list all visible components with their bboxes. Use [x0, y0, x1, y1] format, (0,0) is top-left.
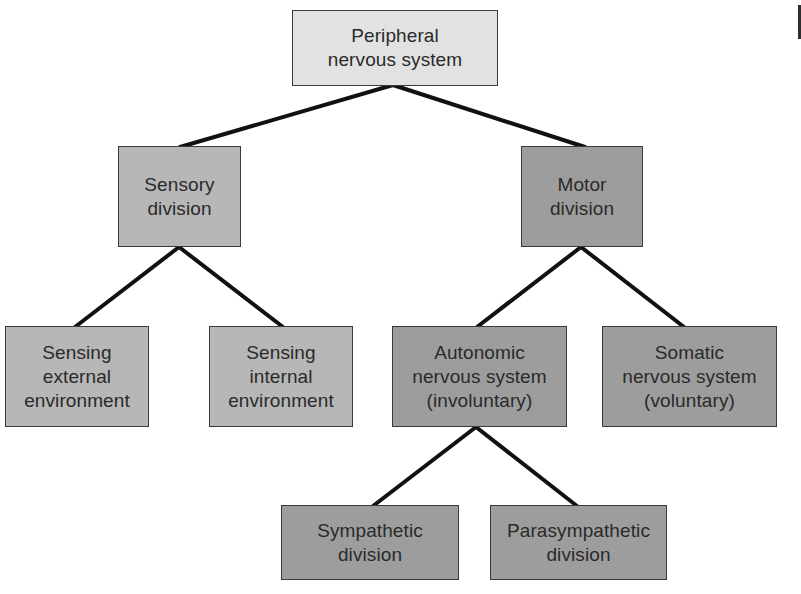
node-label-line: external — [24, 365, 130, 389]
node-label-line: Somatic — [622, 341, 756, 365]
node-sensory-division: Sensory division — [118, 146, 241, 247]
node-label-line: Parasympathetic — [507, 519, 650, 543]
edge-sensory-internal — [179, 247, 283, 327]
node-label-line: Sensory — [144, 173, 214, 197]
node-sympathetic-division: Sympathetic division — [281, 505, 459, 580]
node-label-line: Motor — [550, 173, 614, 197]
edge-sensory-external — [75, 247, 179, 327]
node-peripheral-nervous-system: Peripheral nervous system — [292, 10, 498, 86]
edge-autonomic-sympathetic — [373, 427, 476, 506]
node-label-line: environment — [228, 389, 334, 413]
edge-motor-somatic — [581, 247, 684, 327]
edge-root-motor — [393, 85, 585, 147]
node-autonomic-nervous-system: Autonomic nervous system (involuntary) — [392, 326, 567, 427]
node-label-line: (involuntary) — [412, 389, 546, 413]
node-label-line: nervous system — [328, 48, 462, 72]
node-sensing-external-environment: Sensing external environment — [5, 326, 149, 427]
node-label-line: nervous system — [412, 365, 546, 389]
node-label-line: division — [317, 543, 423, 567]
edge-motor-autonomic — [477, 247, 581, 327]
edge-autonomic-parasympathetic — [476, 427, 577, 506]
node-label-line: (voluntary) — [622, 389, 756, 413]
node-label-line: internal — [228, 365, 334, 389]
node-motor-division: Motor division — [521, 146, 643, 247]
node-label-line: nervous system — [622, 365, 756, 389]
node-label-line: Sensing — [24, 341, 130, 365]
peripheral-nervous-system-diagram: Peripheral nervous system Sensory divisi… — [0, 0, 801, 594]
node-label-line: environment — [24, 389, 130, 413]
node-somatic-nervous-system: Somatic nervous system (voluntary) — [602, 326, 777, 427]
node-label-line: Sympathetic — [317, 519, 423, 543]
node-label-line: division — [507, 543, 650, 567]
node-label-line: Sensing — [228, 341, 334, 365]
node-sensing-internal-environment: Sensing internal environment — [209, 326, 353, 427]
node-parasympathetic-division: Parasympathetic division — [490, 505, 667, 580]
node-label-line: division — [550, 197, 614, 221]
node-label-line: Autonomic — [412, 341, 546, 365]
edge-root-sensory — [180, 85, 393, 147]
node-label-line: Peripheral — [328, 24, 462, 48]
node-label-line: division — [144, 197, 214, 221]
